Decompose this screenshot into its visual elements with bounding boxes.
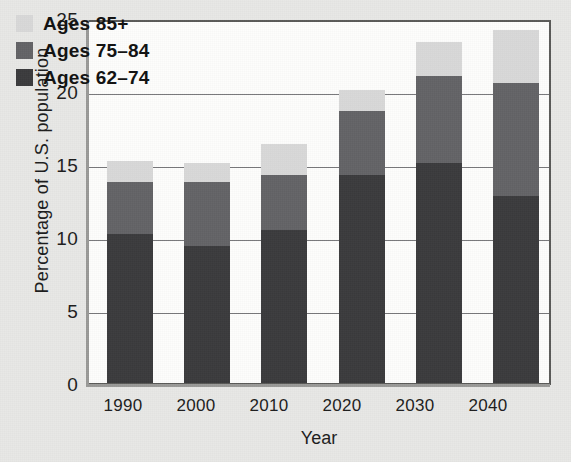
y-tick-label-15: 15 (36, 155, 78, 177)
legend-label-ages-62-74: Ages 62–74 (43, 67, 150, 89)
y-tick-label-0: 0 (36, 374, 78, 396)
chart-legend: Ages 85+ Ages 75–84 Ages 62–74 (16, 10, 150, 91)
bar-segment-2000-ages-75-84 (184, 182, 230, 246)
x-tick-label-2000: 2000 (161, 396, 231, 416)
x-tick-label-2040: 2040 (453, 396, 523, 416)
bar-segment-2020-ages-75-84 (339, 111, 385, 175)
bar-segment-2030-ages-62-74 (416, 163, 462, 383)
x-tick-label-2010: 2010 (234, 396, 304, 416)
x-axis-title: Year (87, 428, 551, 449)
plot-area (87, 20, 551, 385)
legend-item-ages-62-74: Ages 62–74 (16, 64, 150, 91)
legend-item-ages-75-84: Ages 75–84 (16, 37, 150, 64)
bar-segment-2000-ages-62-74 (184, 246, 230, 383)
bar-2040 (493, 18, 539, 383)
bar-2030 (416, 18, 462, 383)
bar-segment-2020-ages-62-74 (339, 175, 385, 383)
legend-label-ages-85-plus: Ages 85+ (43, 13, 129, 35)
bar-segment-2010-ages-75-84 (261, 175, 307, 230)
legend-swatch-icon-ages-62-74 (16, 69, 33, 86)
x-tick-label-2020: 2020 (307, 396, 377, 416)
bar-segment-2040-ages-75-84 (493, 83, 539, 196)
bar-segment-2010-ages-62-74 (261, 230, 307, 383)
bar-segment-2000-ages-85- (184, 163, 230, 182)
bar-2000 (184, 18, 230, 383)
bar-segment-2040-ages-85- (493, 30, 539, 83)
bar-2020 (339, 18, 385, 383)
y-tick-label-10: 10 (36, 228, 78, 250)
bar-segment-2040-ages-62-74 (493, 196, 539, 383)
legend-label-ages-75-84: Ages 75–84 (43, 40, 150, 62)
bar-2010 (261, 18, 307, 383)
legend-item-ages-85-plus: Ages 85+ (16, 10, 150, 37)
bars-container (89, 22, 549, 383)
bar-segment-1990-ages-62-74 (107, 234, 153, 383)
legend-swatch-icon-ages-85-plus (16, 15, 33, 32)
bar-segment-2030-ages-85- (416, 42, 462, 76)
x-tick-label-2030: 2030 (380, 396, 450, 416)
bar-segment-2010-ages-85- (261, 144, 307, 175)
bar-segment-2030-ages-75-84 (416, 76, 462, 162)
legend-swatch-icon-ages-75-84 (16, 42, 33, 59)
bar-segment-1990-ages-85- (107, 161, 153, 181)
bar-segment-1990-ages-75-84 (107, 182, 153, 235)
bar-segment-2020-ages-85- (339, 90, 385, 112)
x-tick-label-1990: 1990 (88, 396, 158, 416)
bar-chart-figure: Percentage of U.S. population 25 20 15 1… (0, 0, 571, 462)
y-tick-label-5: 5 (36, 301, 78, 323)
